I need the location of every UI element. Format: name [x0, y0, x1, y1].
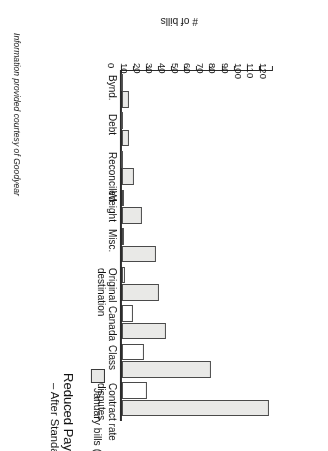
category-label: Debt: [106, 114, 117, 135]
bar: [122, 305, 133, 322]
bar: [121, 151, 123, 168]
axis-tick-label: 70: [195, 63, 206, 74]
bar: [122, 382, 147, 399]
axis-tick-label: 100: [233, 63, 244, 79]
category-label: Misc.: [106, 229, 117, 252]
bar: [122, 267, 126, 284]
axis-tick-label: 90: [220, 63, 231, 74]
category-label: Originaldestination: [95, 268, 116, 316]
bar: [122, 130, 130, 147]
bar: [122, 91, 130, 108]
category-label: Reconciled: [106, 152, 117, 201]
category-label-line: Class: [106, 345, 117, 370]
value-axis-title: # of bills: [161, 16, 198, 27]
axis-tick-label: 50: [170, 63, 181, 74]
bar: [121, 112, 123, 129]
category-label-line: Original: [106, 268, 117, 316]
bar: [122, 207, 142, 224]
category-label-line: Debt: [106, 114, 117, 135]
bar: [122, 323, 166, 340]
bar: [122, 284, 160, 301]
category-label: Contract ratedisputes: [95, 383, 116, 441]
category-label-line: Contract rate: [106, 383, 117, 441]
axis-tick: [272, 66, 273, 71]
axis-tick-label: 20: [132, 63, 143, 74]
category-label-line: Reconciled: [106, 152, 117, 201]
bar: [122, 344, 145, 361]
axis-tick-label: 10: [119, 63, 130, 74]
category-label-line: disputes: [95, 383, 106, 441]
category-label: Class: [106, 345, 117, 370]
bar: [122, 246, 156, 263]
bar: [122, 228, 125, 245]
plot-area: 0102030405060708090100110120 Contract ra…: [0, 0, 328, 451]
axis-tick-label: 40: [157, 63, 168, 74]
category-label: Bynd.: [106, 75, 117, 101]
axis-tick-label: 80: [207, 63, 218, 74]
category-label-line: Misc.: [106, 229, 117, 252]
bar: [122, 361, 212, 378]
axis-tick-label: 0: [106, 63, 117, 68]
axis-tick-label: 120: [258, 63, 269, 79]
bar: [122, 400, 270, 417]
category-label-line: destination: [95, 268, 106, 316]
bar: [122, 190, 125, 207]
axis-tick-label: 30: [144, 63, 155, 74]
chart-figure: Reduced Payment Freight Bills – After St…: [0, 0, 328, 451]
bar: [122, 168, 135, 185]
axis-tick-label: 60: [182, 63, 193, 74]
category-label-line: Bynd.: [106, 75, 117, 101]
axis-tick-label: 110: [245, 63, 256, 78]
bar: [121, 74, 123, 91]
